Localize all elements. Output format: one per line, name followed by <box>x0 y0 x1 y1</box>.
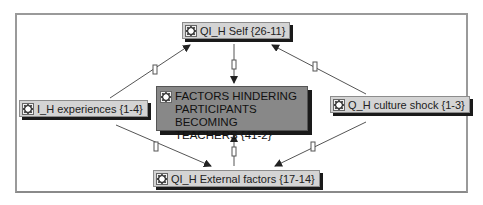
node-label: QI_H External factors {17-14} <box>171 173 315 185</box>
node-culture-shock[interactable]: Q_H culture shock {1-3} <box>330 96 470 113</box>
code-family-icon <box>156 173 168 185</box>
link-handle[interactable] <box>232 147 236 156</box>
link-handle[interactable] <box>232 60 236 69</box>
link-self-to-center[interactable] <box>232 44 236 83</box>
link-handle[interactable] <box>311 142 315 151</box>
code-family-icon <box>333 99 345 111</box>
node-self[interactable]: QI_H Self {26-11} <box>182 22 290 39</box>
code-family-icon <box>22 103 34 115</box>
node-label: QI_H Self {26-11} <box>200 25 285 37</box>
node-experiences[interactable]: I_H experiences {1-4} <box>19 100 148 117</box>
code-family-icon <box>160 91 172 103</box>
link-handle[interactable] <box>313 62 317 71</box>
link-handle[interactable] <box>153 65 157 74</box>
node-label: Q_H culture shock {1-3} <box>348 99 465 111</box>
node-center[interactable]: FACTORS HINDERING PARTICIPANTS BECOMING … <box>156 86 308 131</box>
node-label: FACTORS HINDERING PARTICIPANTS BECOMING … <box>175 90 301 142</box>
node-label: I_H experiences {1-4} <box>37 103 143 115</box>
link-handle[interactable] <box>154 142 158 151</box>
code-family-icon <box>185 25 197 37</box>
node-external-factors[interactable]: QI_H External factors {17-14} <box>153 170 320 187</box>
